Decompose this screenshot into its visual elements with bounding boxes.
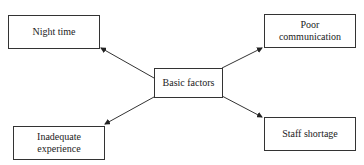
arrow-to-staff-shortage: [222, 96, 262, 117]
node-basic-factors: Basic factors: [154, 68, 223, 98]
node-label: Poor communication: [279, 19, 341, 43]
node-label: Staff shortage: [282, 128, 338, 140]
node-inadequate-experience: Inadequate experience: [13, 126, 105, 160]
center-label: Basic factors: [163, 77, 215, 89]
node-label: Inadequate experience: [32, 131, 86, 155]
node-label: Night time: [32, 26, 75, 38]
node-staff-shortage: Staff shortage: [264, 117, 356, 151]
arrow-to-night-time: [101, 48, 154, 78]
node-poor-communication: Poor communication: [264, 14, 356, 48]
arrow-to-inadequate-experience: [105, 97, 154, 124]
arrow-to-poor-communication: [222, 48, 262, 68]
node-night-time: Night time: [8, 15, 100, 49]
